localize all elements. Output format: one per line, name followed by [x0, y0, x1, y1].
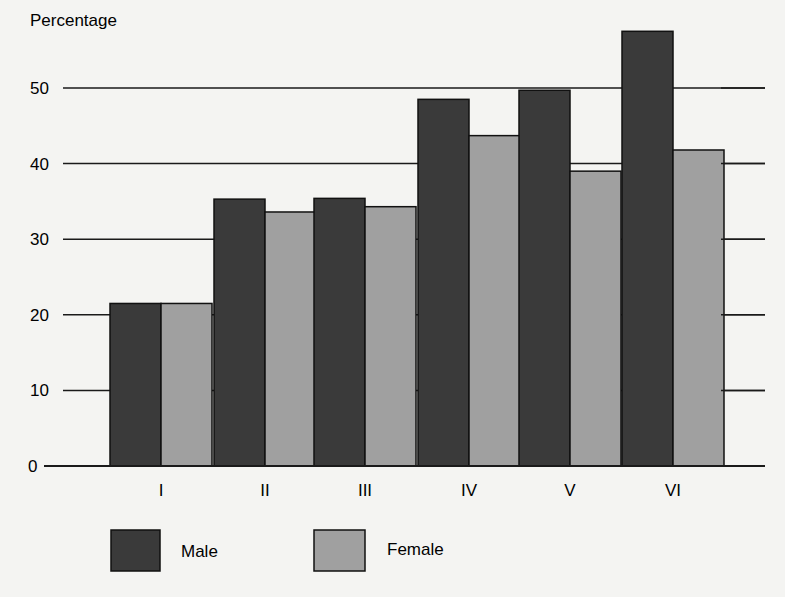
bar-female-IV [469, 136, 520, 466]
bar-female-II [265, 212, 316, 466]
y-tick-label: 20 [30, 306, 49, 325]
bar-male-III [314, 198, 365, 466]
legend-label-female: Female [387, 540, 444, 559]
x-tick-label: III [358, 481, 372, 500]
bar-female-I [161, 303, 212, 466]
x-tick-label: II [260, 481, 269, 500]
y-tick-label: 30 [30, 230, 49, 249]
bar-male-V [519, 90, 570, 466]
bar-chart: Percentage 01020304050 IIIIIIIVVVI Male … [0, 0, 785, 597]
y-tick-label: 10 [30, 381, 49, 400]
x-tick-label: V [564, 481, 576, 500]
legend: Male Female [111, 530, 444, 571]
legend-swatch-male [111, 530, 160, 571]
x-tick-label: I [159, 481, 164, 500]
y-tick-label: 40 [30, 155, 49, 174]
bar-female-VI [673, 150, 724, 466]
bar-female-V [570, 171, 621, 466]
bar-female-III [365, 207, 416, 466]
legend-swatch-female [314, 530, 365, 571]
gridlines-right [721, 88, 765, 390]
x-tick-label: IV [461, 481, 478, 500]
y-tick-label: 0 [28, 457, 37, 476]
bar-male-I [110, 303, 161, 466]
bar-male-VI [622, 31, 673, 466]
y-axis-ticks: 01020304050 [28, 79, 49, 476]
bars [110, 31, 724, 466]
y-axis-title: Percentage [30, 11, 117, 30]
x-axis-labels: IIIIIIIVVVI [159, 481, 681, 500]
bar-male-IV [418, 99, 469, 466]
legend-label-male: Male [181, 542, 218, 561]
bar-male-II [214, 199, 265, 466]
x-tick-label: VI [665, 481, 681, 500]
y-tick-label: 50 [30, 79, 49, 98]
